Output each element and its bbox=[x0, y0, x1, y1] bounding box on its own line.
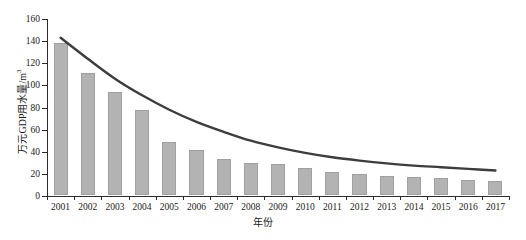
x-tick-mark bbox=[74, 196, 75, 200]
x-axis-title: 年份 bbox=[0, 214, 526, 229]
y-tick-label: 100 bbox=[26, 80, 40, 90]
x-tick-label: 2006 bbox=[187, 202, 206, 212]
x-tick-label: 2014 bbox=[404, 202, 423, 212]
x-tick-label: 2008 bbox=[241, 202, 260, 212]
x-tick-mark bbox=[101, 196, 102, 200]
x-tick-label: 2017 bbox=[486, 202, 505, 212]
x-tick-mark bbox=[292, 196, 293, 200]
x-tick-mark bbox=[346, 196, 347, 200]
y-tick-label: 80 bbox=[31, 103, 41, 113]
x-tick-mark bbox=[400, 196, 401, 200]
x-tick-label: 2010 bbox=[296, 202, 315, 212]
x-tick-mark bbox=[482, 196, 483, 200]
x-tick-label: 2012 bbox=[350, 202, 369, 212]
x-tick-mark bbox=[156, 196, 157, 200]
x-tick-mark bbox=[264, 196, 265, 200]
y-axis-title-superscript: 3 bbox=[15, 69, 23, 73]
trend-line bbox=[47, 19, 509, 197]
x-tick-label: 2007 bbox=[214, 202, 233, 212]
y-tick-label: 0 bbox=[35, 191, 40, 201]
x-tick-mark bbox=[47, 196, 48, 200]
x-tick-mark bbox=[427, 196, 428, 200]
plot-area: 020406080100120140160 200120022003200420… bbox=[47, 19, 509, 196]
x-tick-label: 2016 bbox=[459, 202, 478, 212]
x-tick-label: 2011 bbox=[323, 202, 342, 212]
chart-container: 万元GDP用水量/m3 020406080100120140160 200120… bbox=[0, 0, 526, 240]
x-tick-mark bbox=[129, 196, 130, 200]
x-tick-mark bbox=[210, 196, 211, 200]
x-tick-label: 2003 bbox=[105, 202, 124, 212]
y-tick-label: 120 bbox=[26, 58, 40, 68]
x-tick-mark bbox=[237, 196, 238, 200]
x-tick-mark bbox=[319, 196, 320, 200]
y-tick-label: 20 bbox=[31, 169, 41, 179]
x-tick-mark bbox=[183, 196, 184, 200]
x-tick-label: 2015 bbox=[432, 202, 451, 212]
x-tick-mark bbox=[509, 196, 510, 200]
x-tick-mark bbox=[455, 196, 456, 200]
x-tick-label: 2009 bbox=[269, 202, 288, 212]
x-tick-label: 2005 bbox=[160, 202, 179, 212]
x-tick-label: 2002 bbox=[78, 202, 97, 212]
y-tick-label: 60 bbox=[31, 125, 41, 135]
y-tick-label: 140 bbox=[26, 36, 40, 46]
x-tick-label: 2013 bbox=[377, 202, 396, 212]
x-tick-label: 2004 bbox=[133, 202, 152, 212]
y-tick-label: 160 bbox=[26, 14, 40, 24]
x-tick-label: 2001 bbox=[51, 202, 70, 212]
trend-line-path bbox=[61, 38, 496, 171]
x-tick-mark bbox=[373, 196, 374, 200]
y-tick-label: 40 bbox=[31, 147, 41, 157]
